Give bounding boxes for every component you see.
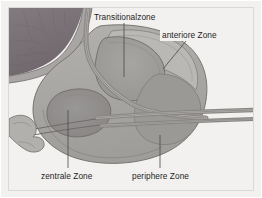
anatomy-diagram-svg (0, 0, 262, 198)
region-central-zone (47, 89, 111, 137)
label-transitionalzone: Transitionalzone (94, 13, 155, 21)
label-anteriore-zone: anteriore Zone (162, 31, 217, 39)
label-periphere-zone: periphere Zone (132, 172, 189, 180)
label-zentrale-zone: zentrale Zone (41, 172, 92, 180)
prostate-zonal-anatomy-figure: Transitionalzone anteriore Zone zentrale… (0, 0, 262, 198)
